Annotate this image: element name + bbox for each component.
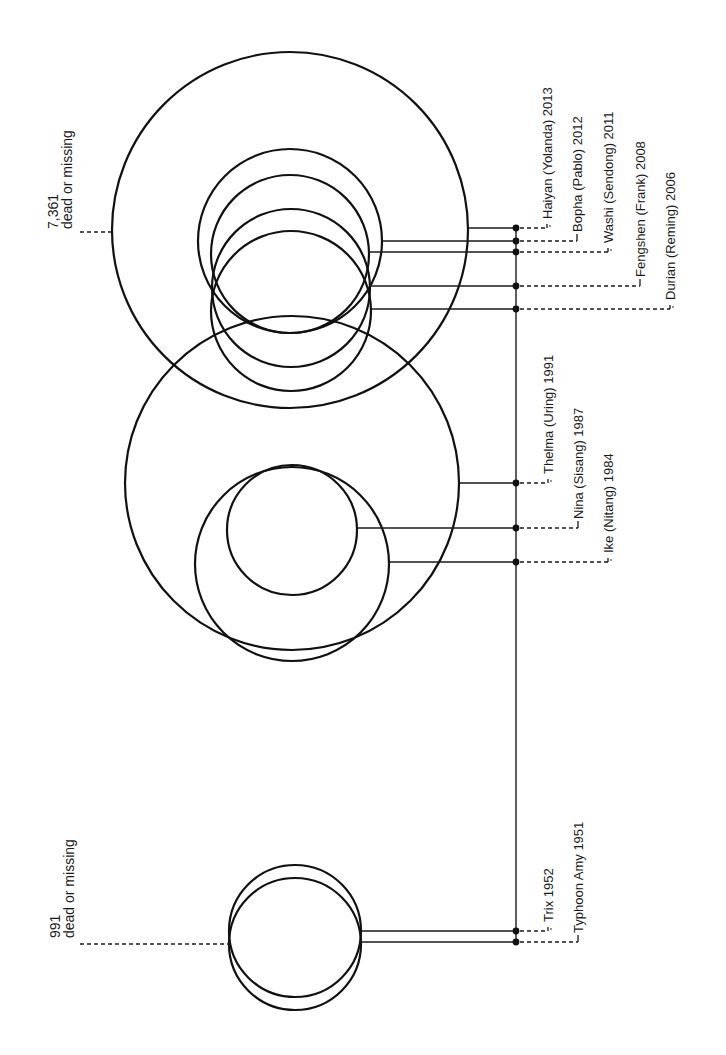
connector-dot <box>513 928 520 935</box>
storm-circle <box>229 865 361 997</box>
storm-label: Haiyan (Yolanda) 2013 <box>540 87 555 219</box>
storm-circle <box>212 209 370 367</box>
connector-dot <box>513 559 520 566</box>
connector-dot <box>513 238 520 245</box>
lower-total-caption: dead or missing <box>61 839 77 938</box>
storm-circles <box>112 52 468 1010</box>
connector-dot <box>513 939 520 946</box>
storm-label: Bopha (Pablo) 2012 <box>570 116 585 232</box>
storm-label: Typhoon Amy 1951 <box>571 822 586 933</box>
leader-tick-dot <box>610 249 612 251</box>
total-annotations: 7,361 dead or missing 991 dead or missin… <box>45 130 231 944</box>
storm-labels: Haiyan (Yolanda) 2013Bopha (Pablo) 2012W… <box>540 87 678 933</box>
storm-label: Washi (Sendong) 2011 <box>601 111 616 243</box>
connector-dot <box>513 283 520 290</box>
storm-label: Nina (Sisang) 1987 <box>571 408 586 519</box>
upper-total-caption: dead or missing <box>59 130 75 229</box>
leader-tick-dot <box>550 480 552 482</box>
storm-label: Ike (Nitang) 1984 <box>601 453 616 553</box>
label-leaders <box>520 224 674 942</box>
connector-dot <box>513 249 520 256</box>
storm-circle <box>195 467 389 661</box>
storm-label: Thelma (Uring) 1991 <box>541 355 556 474</box>
connector-dot <box>513 225 520 232</box>
leader-tick-dot <box>610 559 612 561</box>
connector-lines <box>357 228 516 942</box>
storm-label: Trix 1952 <box>541 868 556 922</box>
typhoon-circle-diagram: Haiyan (Yolanda) 2013Bopha (Pablo) 2012W… <box>0 0 726 1055</box>
connector-dot <box>513 306 520 313</box>
connector-dot <box>513 525 520 532</box>
connector-dot <box>513 480 520 487</box>
storm-circle <box>227 465 357 595</box>
storm-label: Durian (Reming) 2006 <box>663 172 678 300</box>
leader-tick-dot <box>672 306 674 308</box>
leader-tick-dot <box>550 928 552 930</box>
storm-label: Fengshen (Frank) 2008 <box>633 141 648 277</box>
storm-circle <box>229 878 361 1010</box>
leader-tick-dot <box>549 225 551 227</box>
